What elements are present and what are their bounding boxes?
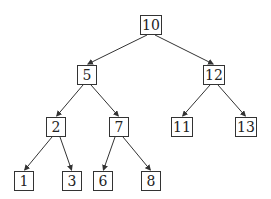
tree-node-13: 13	[235, 117, 257, 137]
edge-5-2	[57, 85, 83, 116]
tree-node-6: 6	[93, 171, 113, 191]
edge-5-7	[91, 85, 118, 116]
tree-node-10: 10	[140, 15, 162, 35]
edge-10-12	[155, 35, 213, 64]
tree-node-2: 2	[46, 117, 66, 137]
tree-node-8: 8	[141, 171, 161, 191]
edge-7-6	[103, 137, 115, 170]
edge-12-13	[218, 85, 245, 116]
tree-edges	[0, 0, 271, 199]
tree-node-11: 11	[171, 117, 193, 137]
tree-node-5: 5	[77, 65, 97, 85]
edge-2-1	[25, 137, 52, 170]
edge-7-8	[123, 137, 150, 170]
tree-node-12: 12	[203, 65, 225, 85]
edge-2-3	[60, 137, 72, 170]
tree-node-1: 1	[14, 171, 34, 191]
edge-10-5	[88, 35, 147, 64]
tree-node-3: 3	[62, 171, 82, 191]
tree-node-7: 7	[109, 117, 129, 137]
edge-12-11	[183, 85, 210, 116]
